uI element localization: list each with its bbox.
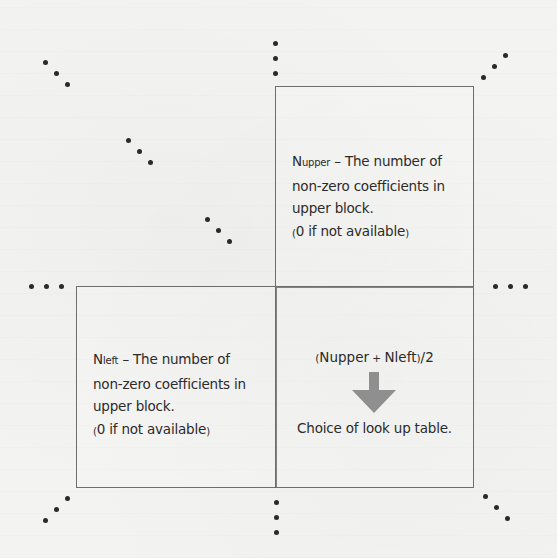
n-symbol: N bbox=[292, 153, 302, 169]
ellipsis-top-left-1-dot bbox=[65, 82, 70, 87]
close-paren: ) bbox=[206, 426, 210, 437]
ellipsis-top-right-dot bbox=[503, 53, 508, 58]
ellipsis-bottom-center-dot bbox=[274, 500, 279, 505]
n-subscript-upper: upper bbox=[302, 157, 330, 168]
ellipsis-top-right-dot bbox=[492, 64, 497, 69]
not-available-note: 0 if not available bbox=[97, 421, 206, 437]
ellipsis-right-dot bbox=[493, 284, 498, 289]
ellipsis-bottom-right-dot bbox=[483, 494, 488, 499]
upper-block-line-2: non-zero coefficients in bbox=[292, 175, 445, 198]
ellipsis-right-dot bbox=[508, 284, 513, 289]
ellipsis-bottom-right-dot bbox=[505, 516, 510, 521]
separator: – bbox=[334, 153, 341, 169]
ellipsis-left-dot bbox=[29, 284, 34, 289]
upper-block-description: Nupper – The number of non-zero coeffici… bbox=[292, 150, 445, 245]
line-text: The number of bbox=[345, 153, 442, 169]
ellipsis-top-left-3-dot bbox=[216, 228, 221, 233]
ellipsis-left-dot bbox=[59, 284, 64, 289]
ellipsis-top-left-2-dot bbox=[148, 160, 153, 165]
ellipsis-top-left-1-dot bbox=[43, 60, 48, 65]
ellipsis-top-left-1-dot bbox=[54, 71, 59, 76]
left-block-description: Nleft – The number of non-zero coefficie… bbox=[93, 348, 246, 443]
ellipsis-bottom-left-dot bbox=[65, 496, 70, 501]
ellipsis-top-left-2-dot bbox=[137, 149, 142, 154]
ellipsis-top-center-dot bbox=[273, 41, 278, 46]
down-arrow-icon bbox=[352, 372, 396, 414]
left-block-line-2: non-zero coefficients in bbox=[93, 373, 246, 396]
ellipsis-top-left-3-dot bbox=[227, 239, 232, 244]
ellipsis-bottom-left-dot bbox=[43, 518, 48, 523]
ellipsis-bottom-center-dot bbox=[274, 515, 279, 520]
n-subscript-left: left bbox=[103, 355, 118, 366]
line-text: The number of bbox=[133, 351, 230, 367]
ellipsis-top-right-dot bbox=[481, 75, 486, 80]
upper-block-line-3: upper block. bbox=[292, 197, 445, 220]
ellipsis-left-dot bbox=[44, 284, 49, 289]
ellipsis-top-left-2-dot bbox=[126, 138, 131, 143]
formula-nupper: Nupper bbox=[319, 349, 369, 365]
ellipsis-bottom-left-dot bbox=[54, 507, 59, 512]
upper-block-line-4: (0 if not available) bbox=[292, 220, 445, 246]
upper-block-line-1: Nupper – The number of bbox=[292, 150, 445, 175]
ellipsis-bottom-center-dot bbox=[274, 530, 279, 535]
separator: – bbox=[122, 351, 129, 367]
ellipsis-right-dot bbox=[523, 284, 528, 289]
ellipsis-top-center-dot bbox=[273, 71, 278, 76]
n-symbol: N bbox=[93, 351, 103, 367]
left-block-line-1: Nleft – The number of bbox=[93, 348, 246, 373]
formula-nleft: Nleft bbox=[385, 349, 417, 365]
close-paren: ) bbox=[405, 228, 409, 239]
average-formula: (Nupper + Nleft)/2 bbox=[275, 349, 474, 365]
left-block-line-4: (0 if not available) bbox=[93, 418, 246, 444]
not-available-note: 0 if not available bbox=[296, 223, 405, 239]
formula-divide: /2 bbox=[421, 349, 434, 365]
formula-plus: + bbox=[369, 352, 385, 364]
ellipsis-top-center-dot bbox=[273, 56, 278, 61]
ellipsis-top-left-3-dot bbox=[205, 217, 210, 222]
left-block-line-3: upper block. bbox=[93, 395, 246, 418]
ellipsis-bottom-right-dot bbox=[494, 505, 499, 510]
lookup-table-result: Choice of look up table. bbox=[275, 420, 474, 436]
